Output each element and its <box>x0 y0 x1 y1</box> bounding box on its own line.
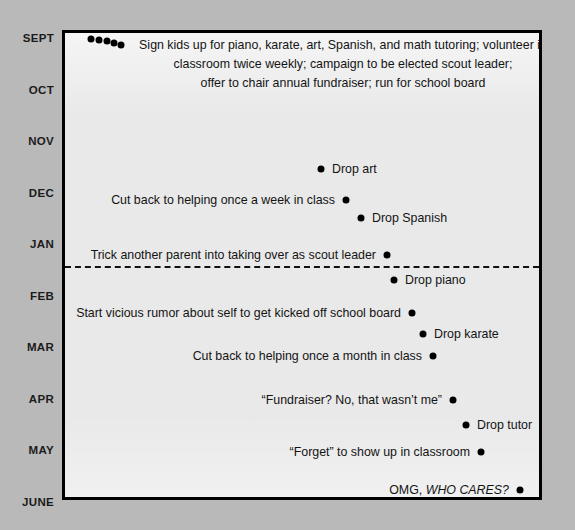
data-point[interactable] <box>343 197 350 204</box>
data-point-label: Start vicious rumor about self to get ki… <box>76 305 401 322</box>
data-point[interactable] <box>420 331 427 338</box>
data-point[interactable] <box>463 422 470 429</box>
intro-annotation-line: classroom twice weekly; campaign to be e… <box>133 55 542 74</box>
data-point[interactable] <box>450 397 457 404</box>
midyear-dashed-divider <box>65 266 539 268</box>
figure-canvas: SEPTOCTNOVDECJANFEBMARAPRMAYJUNE Drop ar… <box>0 0 575 530</box>
axis-label-dec: DEC <box>2 187 54 199</box>
data-point[interactable] <box>104 38 111 45</box>
data-point[interactable] <box>384 252 391 259</box>
axis-label-apr: APR <box>2 393 54 405</box>
data-point[interactable] <box>318 166 325 173</box>
data-point[interactable] <box>517 487 524 494</box>
data-point[interactable] <box>430 353 437 360</box>
data-point-label: “Fundraiser? No, that wasn’t me” <box>262 392 442 409</box>
data-point-label: Drop karate <box>434 326 499 343</box>
commitment-shade-region <box>62 30 542 500</box>
data-point[interactable] <box>88 36 95 43</box>
plot-area: Drop artCut back to helping once a week … <box>62 30 542 500</box>
intro-annotation-line: Sign kids up for piano, karate, art, Spa… <box>133 36 542 55</box>
data-point[interactable] <box>111 40 118 47</box>
intro-annotation: Sign kids up for piano, karate, art, Spa… <box>133 36 542 93</box>
data-point-label: OMG, WHO CARES? <box>389 482 509 499</box>
axis-label-june: JUNE <box>2 496 54 508</box>
data-point-label: Drop Spanish <box>372 210 447 227</box>
axis-label-jan: JAN <box>2 238 54 250</box>
axis-label-mar: MAR <box>2 341 54 353</box>
intro-annotation-line: offer to chair annual fundraiser; run fo… <box>133 74 542 93</box>
axis-label-oct: OCT <box>2 84 54 96</box>
data-point[interactable] <box>478 449 485 456</box>
data-point[interactable] <box>358 215 365 222</box>
axis-label-may: MAY <box>2 444 54 456</box>
data-point[interactable] <box>391 277 398 284</box>
axis-label-sept: SEPT <box>2 32 54 44</box>
data-point-label: Cut back to helping once a month in clas… <box>193 348 422 365</box>
data-point-label: “Forget” to show up in classroom <box>290 444 470 461</box>
data-point-label: Trick another parent into taking over as… <box>91 247 376 264</box>
axis-label-feb: FEB <box>2 290 54 302</box>
data-point[interactable] <box>96 37 103 44</box>
data-point[interactable] <box>118 42 125 49</box>
data-point-label: Drop tutor <box>477 417 532 434</box>
data-point-label: Drop piano <box>405 272 466 289</box>
data-point-label: Cut back to helping once a week in class <box>111 192 335 209</box>
label-emphasis: WHO CARES? <box>426 483 509 497</box>
data-point-label: Drop art <box>332 161 377 178</box>
data-point[interactable] <box>409 310 416 317</box>
axis-label-nov: NOV <box>2 135 54 147</box>
